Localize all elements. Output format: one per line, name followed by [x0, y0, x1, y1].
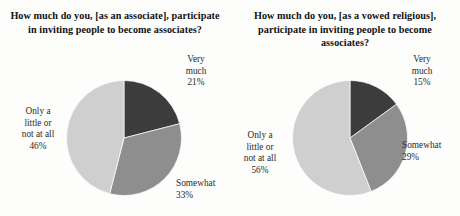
slice-label-somewhat-associate: Somewhat 33% — [176, 178, 234, 201]
slice-value-very-much-associate: 21% — [176, 77, 216, 89]
slice-label-little-line2-associate: little or — [24, 118, 51, 128]
slice-label-very-much-line1-vowed-religious: Very — [413, 54, 431, 64]
slice-label-little-line1-associate: Only a — [25, 106, 50, 116]
slice-value-little-or-none-vowed-religious: 56% — [232, 165, 288, 177]
figure-canvas: How much do you, [as an associate], part… — [0, 0, 460, 216]
slice-label-little-or-none-associate: Only a little or not at all 46% — [10, 106, 66, 152]
pie-chart-vowed-religious — [292, 80, 408, 196]
slice-label-little-line1-vowed-religious: Only a — [247, 130, 272, 140]
slice-label-very-much-line1-associate: Very — [187, 54, 205, 64]
slice-label-little-line3-associate: not at all — [22, 129, 55, 139]
slice-label-somewhat-vowed-religious: Somewhat 29% — [402, 140, 460, 163]
slice-value-little-or-none-associate: 46% — [10, 141, 66, 153]
pie-svg-associate — [66, 80, 182, 196]
slice-label-somewhat-text-vowed-religious: Somewhat — [402, 140, 441, 150]
slice-label-very-much-vowed-religious: Very much 15% — [402, 54, 442, 89]
pie-svg-vowed-religious — [292, 80, 408, 196]
slice-value-somewhat-associate: 33% — [176, 190, 234, 202]
slice-label-little-line3-vowed-religious: not at all — [244, 153, 277, 163]
slice-label-very-much-associate: Very much 21% — [176, 54, 216, 89]
slice-label-very-much-line2-vowed-religious: much — [412, 66, 433, 76]
chart-title-vowed-religious: How much do you, [as a vowed religious],… — [238, 9, 452, 50]
slice-value-somewhat-vowed-religious: 29% — [402, 152, 460, 164]
chart-title-associate: How much do you, [as an associate], part… — [8, 9, 222, 36]
slice-label-very-much-line2-associate: much — [186, 66, 207, 76]
pie-chart-associate — [66, 80, 182, 196]
slice-label-little-or-none-vowed-religious: Only a little or not at all 56% — [232, 130, 288, 176]
pie-chart-panel-associate: How much do you, [as an associate], part… — [0, 0, 230, 216]
slice-label-somewhat-text-associate: Somewhat — [176, 178, 215, 188]
slice-label-little-line2-vowed-religious: little or — [246, 142, 273, 152]
slice-value-very-much-vowed-religious: 15% — [402, 77, 442, 89]
